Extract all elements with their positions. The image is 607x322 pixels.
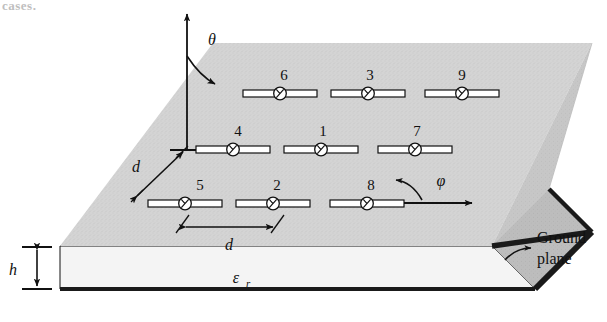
substrate-height-label: h [9, 261, 17, 278]
element-label: 1 [319, 123, 327, 139]
antenna-array-diagram: θ φ 6 3 [0, 0, 607, 322]
element-label: 4 [234, 123, 242, 139]
element-label: 9 [458, 67, 466, 83]
substrate-height-dimension [22, 247, 52, 289]
phi-label: φ [437, 172, 446, 190]
figure-canvas: cases. [0, 0, 607, 322]
element-label: 5 [196, 177, 204, 193]
substrate-front-face [60, 246, 535, 289]
element-label: 8 [367, 177, 375, 193]
spacing-horizontal-label: d [225, 236, 234, 253]
element-label: 6 [280, 67, 288, 83]
element-label: 3 [366, 67, 374, 83]
ground-plane-label-line2: plane [537, 250, 572, 268]
element-label: 7 [413, 123, 421, 139]
svg-text:ε: ε [233, 269, 240, 286]
ground-plane-label-line1: Ground [537, 229, 586, 246]
element-label: 2 [273, 177, 281, 193]
svg-text:r: r [246, 277, 251, 289]
spacing-vertical-label: d [132, 158, 141, 175]
theta-label: θ [208, 31, 216, 48]
page-text-fragment: cases. [2, 0, 36, 14]
